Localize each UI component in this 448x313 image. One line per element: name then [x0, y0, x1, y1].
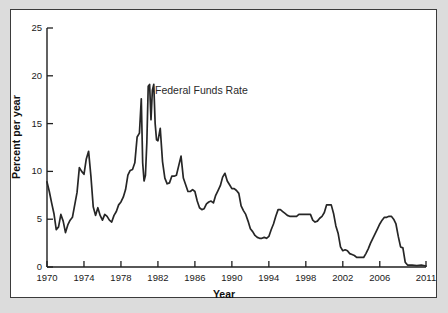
y-axis-tick-label: 5 [20, 214, 42, 224]
x-axis-tick-label: 1990 [212, 273, 252, 283]
x-axis-tick-label: 1994 [249, 273, 289, 283]
chart-figure: 0510152025 19701974197819821986199019941… [0, 0, 448, 313]
x-axis-tick-label: 1974 [64, 273, 104, 283]
y-axis-title: Percent per year [10, 77, 22, 197]
y-axis-tick-label: 10 [20, 166, 42, 176]
x-axis-tick-label: 2006 [360, 273, 400, 283]
x-axis-title: Year [0, 288, 448, 300]
x-axis-tick-label: 1986 [175, 273, 215, 283]
y-axis-tick-label: 0 [20, 262, 42, 272]
series-annotation-label: Federal Funds Rate [155, 84, 248, 96]
chart-frame [10, 9, 437, 298]
x-axis-tick-label: 1982 [138, 273, 178, 283]
x-axis-tick-label: 1978 [101, 273, 141, 283]
x-axis-tick-label: 2002 [323, 273, 363, 283]
x-axis-tick-label: 1970 [27, 273, 67, 283]
x-axis-tick-label: 2011 [406, 273, 446, 283]
y-axis-tick-label: 15 [20, 119, 42, 129]
y-axis-tick-label: 20 [20, 71, 42, 81]
y-axis-tick-label: 25 [20, 23, 42, 33]
x-axis-tick-label: 1998 [286, 273, 326, 283]
